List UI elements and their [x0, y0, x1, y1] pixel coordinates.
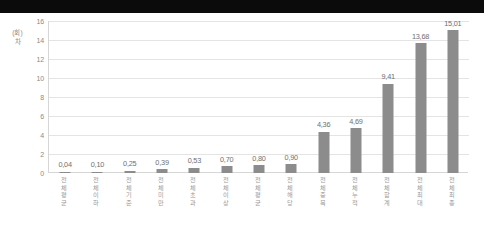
x-axis-category-label: 전체 최대: [414, 176, 425, 206]
bar-slot[interactable]: 4,36: [307, 21, 339, 173]
bar-slot[interactable]: 4,69: [340, 21, 372, 173]
bar-value-label: 0,25: [123, 159, 136, 168]
bar[interactable]: [415, 43, 426, 173]
bar-value-label: 0,10: [91, 160, 104, 169]
bar[interactable]: [350, 128, 361, 173]
bar-value-label: 0,39: [155, 158, 168, 167]
bar[interactable]: [253, 165, 264, 173]
x-axis-category-label: 전체 초과: [188, 176, 199, 206]
bar-slot[interactable]: 0,10: [81, 21, 113, 173]
y-axis-tick: 12: [24, 56, 44, 63]
x-axis-category-label: 전체 최종: [446, 176, 457, 206]
bar-slot[interactable]: 0,04: [49, 21, 81, 173]
bar-value-label: 4,69: [349, 117, 362, 126]
x-axis-category-label: 전체 이하: [91, 176, 102, 206]
bar[interactable]: [318, 132, 329, 173]
bar-value-label: 0,70: [220, 155, 233, 164]
y-axis-title: (회) 차: [11, 29, 24, 46]
bar-slot[interactable]: 0,25: [114, 21, 146, 173]
bar-value-label: 0,90: [285, 153, 298, 162]
bar-value-label: 0,80: [252, 154, 265, 163]
bar-value-label: 0,53: [188, 156, 201, 165]
x-axis-category-label: 전체 기준: [123, 176, 134, 206]
bar[interactable]: [221, 166, 232, 173]
bar-value-label: 4,36: [317, 120, 330, 129]
bar-value-label: 13,68: [412, 32, 429, 41]
bar[interactable]: [157, 169, 168, 173]
plot-area: 0,040,100,250,390,530,700,800,904,364,69…: [48, 21, 468, 173]
x-axis-category-label: 전체 합계: [382, 176, 393, 206]
x-axis-category-label: 전체 누적: [349, 176, 360, 206]
bar-slot[interactable]: 0,53: [178, 21, 210, 173]
bar[interactable]: [383, 84, 394, 173]
x-axis-category-label: 전체 중복: [317, 176, 328, 206]
bar-slot[interactable]: 13,68: [404, 21, 436, 173]
y-axis-tick: 8: [24, 94, 44, 101]
bar-chart: (회) 차 1614121086420 0,040,100,250,390,53…: [0, 13, 484, 232]
x-axis-category-label: 전체 해당: [285, 176, 296, 206]
x-axis-category-labels: 전체 평균전체 이하전체 기준전체 미만전체 초과전체 이상전체 평균전체 해당…: [48, 176, 468, 226]
x-axis-category-label: 전체 미만: [156, 176, 167, 206]
bar[interactable]: [286, 164, 297, 173]
y-axis-tick: 6: [24, 113, 44, 120]
bars-layer: 0,040,100,250,390,530,700,800,904,364,69…: [49, 21, 469, 173]
top-black-band: [0, 0, 484, 13]
y-axis-tick: 10: [24, 75, 44, 82]
y-axis-tick: 0: [24, 170, 44, 177]
y-axis-tick: 14: [24, 37, 44, 44]
bar[interactable]: [189, 168, 200, 173]
bar[interactable]: [92, 172, 103, 174]
x-axis-category-label: 전체 평균: [59, 176, 70, 206]
bar[interactable]: [124, 171, 135, 173]
x-axis-category-label: 전체 평균: [253, 176, 264, 206]
bar-slot[interactable]: 9,41: [372, 21, 404, 173]
y-axis-tick: 2: [24, 151, 44, 158]
bar-slot[interactable]: 0,70: [211, 21, 243, 173]
x-axis-category-label: 전체 이상: [220, 176, 231, 206]
y-axis-tick: 4: [24, 132, 44, 139]
bar-slot[interactable]: 0,90: [275, 21, 307, 173]
bar-slot[interactable]: 0,39: [146, 21, 178, 173]
y-axis-tick-labels: 1614121086420: [24, 13, 44, 232]
y-axis-tick: 16: [24, 18, 44, 25]
bar[interactable]: [60, 172, 71, 174]
bar-slot[interactable]: 15,01: [437, 21, 469, 173]
bar[interactable]: [447, 30, 458, 173]
bar-slot[interactable]: 0,80: [243, 21, 275, 173]
bar-value-label: 15,01: [444, 19, 461, 28]
bar-value-label: 9,41: [382, 72, 395, 81]
bar-value-label: 0,04: [58, 160, 71, 169]
